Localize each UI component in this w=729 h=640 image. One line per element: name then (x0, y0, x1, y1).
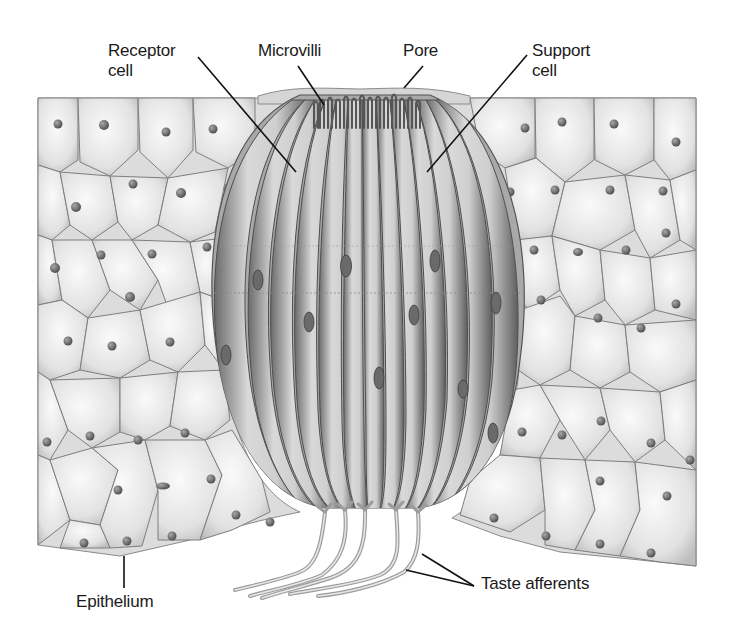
taste-afferents-nerves (235, 510, 419, 598)
label-support-cell: Support cell (532, 41, 590, 81)
label-microvilli: Microvilli (258, 41, 321, 61)
taste-bud-body (210, 95, 530, 510)
taste-bud-illustration (0, 0, 729, 640)
label-receptor-cell: Receptor cell (108, 41, 175, 81)
leader-line-taste-afferents (422, 554, 474, 586)
label-pore: Pore (403, 41, 438, 61)
leader-line-taste-afferents (406, 570, 474, 586)
label-epithelium: Epithelium (76, 592, 153, 612)
label-taste-afferents: Taste afferents (481, 574, 589, 594)
leader-line-pore (404, 66, 423, 88)
